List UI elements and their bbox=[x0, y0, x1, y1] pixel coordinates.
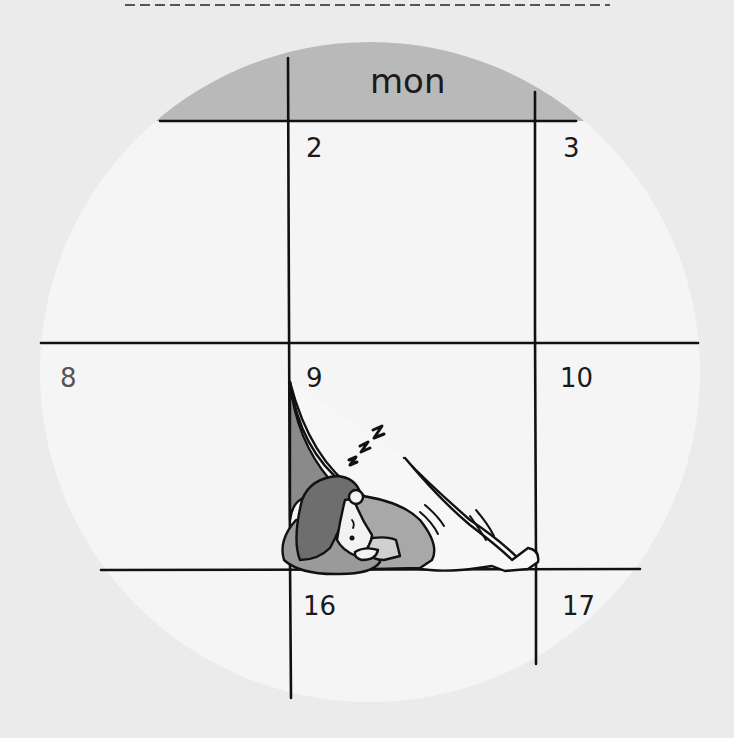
header-cap bbox=[0, 0, 734, 121]
date-label-10: 10 bbox=[560, 365, 593, 391]
calendar-illustration bbox=[0, 0, 734, 738]
date-label-3: 3 bbox=[563, 135, 580, 161]
date-label-2: 2 bbox=[306, 135, 323, 161]
date-label-16: 16 bbox=[303, 593, 336, 619]
date-label-8: 8 bbox=[60, 365, 77, 391]
date-label-9: 9 bbox=[306, 365, 323, 391]
illustration-stage: mon 2389101617 bbox=[0, 0, 734, 738]
date-label-17: 17 bbox=[562, 593, 595, 619]
day-header-mon: mon bbox=[370, 64, 445, 98]
